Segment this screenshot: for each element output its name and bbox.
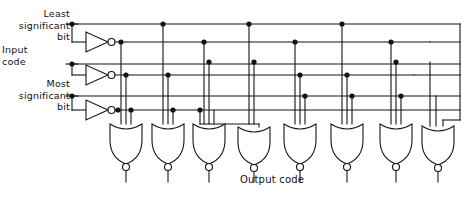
junction-dot bbox=[201, 39, 206, 44]
nor-gate-2 bbox=[193, 124, 225, 164]
nor-gate-6-bubble-icon bbox=[393, 164, 400, 171]
nor-gate-6 bbox=[380, 124, 412, 164]
inverter-msb bbox=[86, 100, 108, 120]
junction-dot bbox=[292, 39, 297, 44]
junction-dot bbox=[69, 93, 74, 98]
junction-dot bbox=[297, 72, 302, 77]
nor-gate-1-bubble-icon bbox=[165, 164, 172, 171]
inverter-mid-bubble-icon bbox=[108, 72, 115, 79]
inverter-mid bbox=[86, 65, 108, 85]
junction-dot bbox=[393, 59, 398, 64]
junction-dot bbox=[206, 59, 211, 64]
junction-dot bbox=[118, 39, 123, 44]
nor-gate-0 bbox=[110, 124, 142, 164]
junction-dot bbox=[69, 21, 74, 26]
nor-gate-4 bbox=[284, 124, 316, 164]
junction-dot bbox=[344, 72, 349, 77]
circuit-diagram-figure: Least significant bit Input code Most si… bbox=[0, 0, 471, 200]
nor-gate-5 bbox=[331, 124, 363, 164]
inverter-lsb-bubble-icon bbox=[108, 39, 115, 46]
nor-gate-7-bubble-icon bbox=[435, 165, 442, 172]
junction-dot bbox=[160, 21, 165, 26]
junction-dot bbox=[398, 93, 403, 98]
inverter-lsb bbox=[86, 32, 108, 52]
junction-dot bbox=[349, 93, 354, 98]
inverter-msb-bubble-icon bbox=[108, 107, 115, 114]
junction-dot bbox=[339, 21, 344, 26]
nor-gate-3-bubble-icon bbox=[251, 165, 258, 172]
junction-dot bbox=[69, 61, 74, 66]
junction-dot bbox=[388, 39, 393, 44]
junction-dot bbox=[246, 21, 251, 26]
junction-dot bbox=[251, 59, 256, 64]
schematic-canvas bbox=[0, 0, 471, 200]
junction-dot bbox=[115, 107, 120, 112]
junction-dot bbox=[165, 72, 170, 77]
junction-dot bbox=[123, 72, 128, 77]
junction-dot bbox=[302, 93, 307, 98]
nor-gate-4-bubble-icon bbox=[297, 164, 304, 171]
nor-gate-0-bubble-icon bbox=[123, 164, 130, 171]
nor-gate-5-bubble-icon bbox=[344, 164, 351, 171]
junction-dot bbox=[128, 107, 133, 112]
nor-gate-2-bubble-icon bbox=[206, 164, 213, 171]
junction-dot bbox=[197, 107, 202, 112]
nor-gate-1 bbox=[152, 124, 184, 164]
junction-dot bbox=[170, 107, 175, 112]
nor-gate-7 bbox=[422, 126, 454, 165]
junction-dot-group bbox=[69, 21, 403, 112]
nor-gate-3 bbox=[238, 127, 270, 165]
